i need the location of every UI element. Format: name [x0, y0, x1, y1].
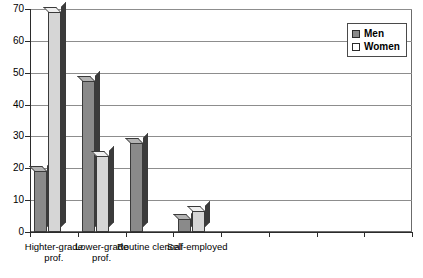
bar-front-face	[130, 143, 143, 232]
y-axis-tick-label: 10	[0, 195, 24, 205]
x-tick	[78, 232, 79, 237]
bar-front-face	[192, 211, 205, 232]
bar-women	[96, 156, 109, 232]
gridline	[30, 9, 412, 10]
bar-front-face	[82, 81, 95, 232]
x-tick	[269, 232, 270, 237]
gridline	[30, 73, 412, 74]
bar-men	[34, 171, 47, 232]
y-axis-tick-label: 40	[0, 100, 24, 110]
y-tick	[25, 200, 30, 201]
bar-men	[130, 143, 143, 232]
y-tick	[25, 41, 30, 42]
men-swatch-icon	[352, 30, 360, 38]
x-tick	[126, 232, 127, 237]
bar-women	[192, 211, 205, 232]
y-axis-tick-label: 20	[0, 163, 24, 173]
y-axis-tick-label: 0	[0, 227, 24, 237]
bar-men	[82, 81, 95, 232]
x-tick	[412, 232, 413, 237]
y-tick	[25, 136, 30, 137]
y-tick	[25, 168, 30, 169]
bar-front-face	[34, 171, 47, 232]
legend-label-men: Men	[364, 28, 384, 39]
x-tick	[317, 232, 318, 237]
bar-side-face	[143, 133, 148, 227]
bar-chart: 010203040506070 Highter-grade prof.Lower…	[0, 0, 423, 278]
legend-item-men[interactable]: Men	[352, 27, 400, 40]
x-tick	[221, 232, 222, 237]
y-tick	[25, 9, 30, 10]
legend-item-women[interactable]: Women	[352, 40, 400, 53]
bar-side-face	[61, 2, 66, 227]
y-axis-tick-label: 30	[0, 131, 24, 141]
y-tick	[25, 73, 30, 74]
bar-side-face	[109, 146, 114, 227]
y-axis-tick-label: 70	[0, 4, 24, 14]
y-axis-tick-label: 50	[0, 68, 24, 78]
x-axis-category-label: Self-employed	[161, 241, 233, 252]
x-tick	[30, 232, 31, 237]
y-axis-tick-label: 60	[0, 36, 24, 46]
bar-women	[48, 12, 61, 232]
women-swatch-icon	[352, 43, 360, 51]
y-axis	[30, 9, 31, 232]
y-tick	[25, 105, 30, 106]
x-tick	[364, 232, 365, 237]
x-tick	[173, 232, 174, 237]
bar-front-face	[48, 12, 61, 232]
chart-legend: Men Women	[347, 23, 407, 57]
bar-front-face	[178, 219, 191, 232]
bar-front-face	[96, 156, 109, 232]
bar-men	[178, 219, 191, 232]
legend-label-women: Women	[364, 41, 400, 52]
